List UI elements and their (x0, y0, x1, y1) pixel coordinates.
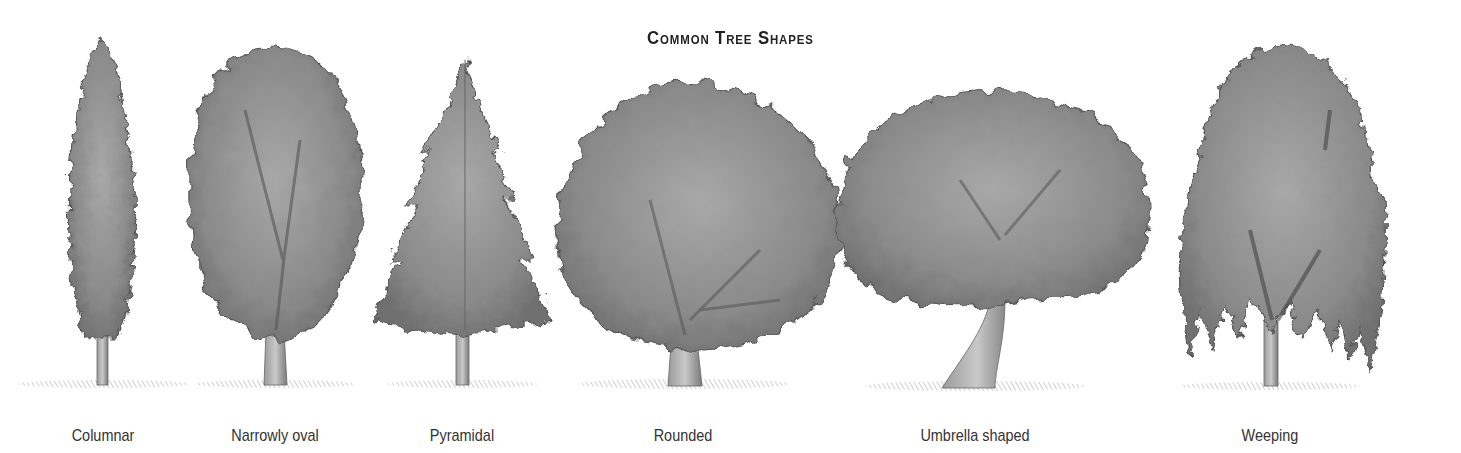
tree-illustrations (0, 0, 1461, 453)
tree-columnar-illustration (18, 40, 188, 388)
label-columnar: Columnar (72, 426, 135, 446)
label-weeping: Weeping (1242, 426, 1299, 446)
label-narrowly-oval: Narrowly oval (231, 426, 319, 446)
tree-narrowly-oval-illustration (190, 48, 360, 388)
tree-pyramidal-illustration (372, 58, 552, 388)
tree-weeping-illustration (1180, 45, 1386, 390)
label-pyramidal: Pyramidal (430, 426, 494, 446)
tree-umbrella-shaped-illustration (838, 91, 1150, 391)
tree-rounded-illustration (558, 82, 840, 389)
label-umbrella-shaped: Umbrella shaped (920, 426, 1029, 446)
label-rounded: Rounded (654, 426, 713, 446)
